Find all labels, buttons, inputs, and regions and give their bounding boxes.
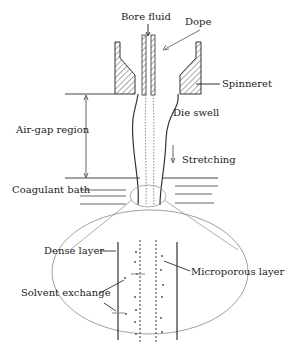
label-air-gap: Air-gap region [16, 125, 89, 135]
label-die-swell: Die swell [173, 108, 219, 118]
label-coagulant-bath: Coagulant bath [12, 185, 90, 195]
spinneret-right [180, 42, 201, 94]
label-dense-layer: Dense layer [44, 246, 104, 256]
label-stretching: Stretching [182, 155, 236, 165]
spinning-diagram [0, 0, 286, 359]
label-bore-fluid: Bore fluid [121, 12, 171, 22]
label-spinneret: Spinneret [222, 79, 272, 89]
label-dope: Dope [185, 17, 211, 27]
label-solvent-exchange: Solvent exchange [21, 288, 111, 298]
label-microporous-layer: Microporous layer [191, 267, 284, 277]
spinneret-left [115, 42, 135, 94]
